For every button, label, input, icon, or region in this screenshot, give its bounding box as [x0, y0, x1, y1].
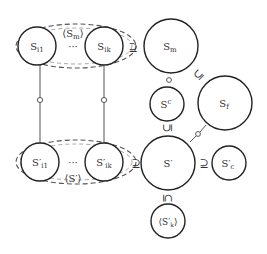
compose-icon: [196, 132, 201, 137]
compose-icon: [37, 97, 42, 102]
subseteq-icon: ⊆: [161, 123, 174, 132]
supseteq-icon: ⊇: [128, 41, 137, 54]
top-group-label: ⟨Sm⟩: [62, 28, 83, 41]
node-S-i1[interactable]: Si1: [18, 27, 56, 65]
node-S-prime-c[interactable]: S′c: [212, 146, 246, 180]
subseteq-icon: ⊆: [191, 67, 207, 83]
diagram-canvas: ⟨Sm⟩ ··· Si1 Sik ⟨S′⟩ ··· S′i1 S′ik: [0, 0, 267, 254]
node-S-ik[interactable]: Sik: [85, 27, 123, 65]
node-S-prime-k[interactable]: ⟨S′k⟩: [151, 204, 185, 238]
bottom-group: ⟨S′⟩ ··· S′i1 S′ik: [16, 140, 136, 184]
node-S-c[interactable]: Sc: [150, 87, 184, 121]
top-ellipsis: ···: [68, 41, 78, 52]
top-group: ⟨Sm⟩ ··· Si1 Sik: [16, 24, 136, 68]
node-S-f[interactable]: Sf: [198, 76, 252, 130]
bottom-group-label: ⟨S′⟩: [65, 173, 82, 184]
subseteq-icon: ⊆: [161, 193, 174, 202]
svg-text:⟨S′k⟩: ⟨S′k⟩: [159, 217, 178, 228]
svg-text:S′: S′: [163, 158, 173, 169]
supseteq-icon: ⊇: [199, 157, 208, 170]
compose-icon: [101, 97, 106, 102]
node-S-prime-i1[interactable]: S′i1: [21, 143, 59, 181]
node-S-m[interactable]: Sm: [144, 19, 198, 73]
bottom-ellipsis: ···: [68, 157, 78, 168]
compose-icon: [167, 78, 172, 83]
node-S-prime[interactable]: S′: [141, 136, 195, 190]
node-S-prime-ik[interactable]: S′ik: [85, 143, 123, 181]
supseteq-icon: ⊇: [131, 157, 140, 170]
vertical-connectors: [37, 65, 106, 144]
